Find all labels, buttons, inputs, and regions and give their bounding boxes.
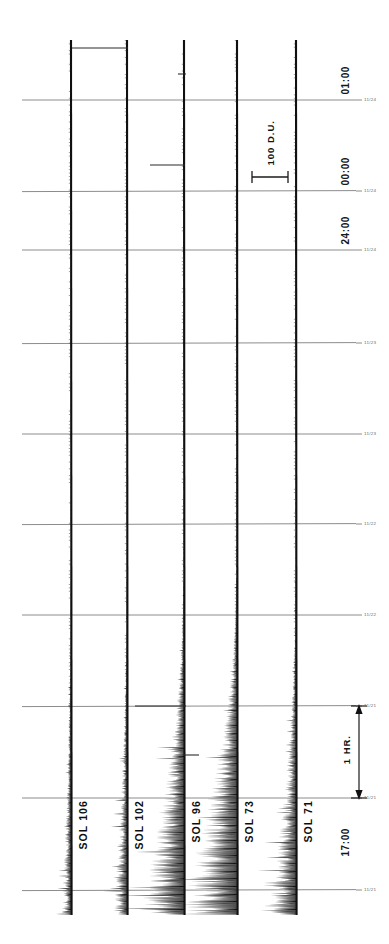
- trace-texture: [182, 519, 184, 520]
- trace-texture: [235, 101, 237, 102]
- trace-texture: [125, 360, 127, 361]
- trace-label-sol-102: SOL 102: [133, 800, 145, 850]
- trace-texture: [69, 424, 71, 425]
- trace-texture: [125, 305, 127, 306]
- trace-texture: [69, 570, 71, 571]
- trace-texture: [182, 815, 184, 816]
- gridline-date-label: 11/23: [364, 431, 376, 436]
- trace-texture: [125, 451, 127, 452]
- trace-texture: [235, 710, 237, 711]
- trace-texture: [125, 213, 127, 214]
- trace-texture: [69, 645, 71, 646]
- trace-texture: [69, 625, 71, 626]
- trace-texture: [125, 649, 127, 650]
- trace-texture: [125, 254, 127, 255]
- trace-texture: [125, 696, 127, 697]
- trace-texture: [235, 547, 237, 548]
- trace-texture: [294, 628, 296, 629]
- trace-texture: [235, 190, 237, 191]
- trace-texture: [182, 322, 184, 323]
- trace-texture: [125, 870, 127, 871]
- trace-texture: [125, 774, 127, 775]
- trace-texture: [235, 220, 237, 221]
- trace-texture: [182, 268, 184, 269]
- trace-texture: [235, 135, 237, 136]
- trace-texture: [294, 339, 296, 340]
- trace-texture: [235, 319, 237, 320]
- trace-texture: [294, 455, 296, 456]
- gridlines-group: [22, 100, 362, 891]
- trace-texture: [182, 499, 184, 500]
- trace-texture: [235, 207, 237, 208]
- strip-chart-figure: 11/2411/2411/2411/2311/2311/2211/2211/21…: [0, 0, 389, 944]
- trace-texture: [69, 462, 71, 463]
- trace-texture: [69, 169, 71, 170]
- trace-texture: [294, 101, 296, 102]
- trace-texture: [125, 676, 127, 677]
- trace-texture: [182, 319, 184, 320]
- trace-texture: [69, 560, 71, 561]
- trace-texture: [69, 808, 71, 809]
- trace-texture: [125, 152, 127, 153]
- trace-texture: [125, 778, 127, 779]
- trace-texture: [69, 434, 71, 435]
- trace-texture: [182, 560, 184, 561]
- trace-texture: [125, 332, 127, 333]
- trace-texture: [125, 570, 127, 571]
- trace-texture: [235, 210, 237, 211]
- trace-texture: [294, 536, 296, 537]
- trace-texture: [235, 414, 237, 415]
- trace-texture: [125, 550, 127, 551]
- trace-texture: [125, 492, 127, 493]
- trace-texture: [182, 482, 184, 483]
- trace-texture: [125, 455, 127, 456]
- trace-texture: [69, 111, 71, 112]
- trace-texture: [125, 642, 127, 643]
- trace-texture: [182, 227, 184, 228]
- trace-texture: [182, 64, 184, 65]
- trace-texture: [125, 462, 127, 463]
- trace-texture: [69, 295, 71, 296]
- trace-texture: [294, 893, 296, 894]
- trace-texture: [182, 377, 184, 378]
- trace-texture: [125, 288, 127, 289]
- trace-texture: [69, 329, 71, 330]
- trace-texture: [69, 842, 71, 843]
- trace-texture: [125, 336, 127, 337]
- trace-texture: [235, 730, 237, 731]
- trace-texture: [125, 543, 127, 544]
- trace-texture: [235, 717, 237, 718]
- trace-texture: [294, 241, 296, 242]
- trace-texture: [125, 706, 127, 707]
- trace-texture: [294, 186, 296, 187]
- trace-texture: [69, 166, 71, 167]
- trace-baseline: [71, 40, 72, 915]
- trace-texture: [69, 455, 71, 456]
- trace-texture: [182, 292, 184, 293]
- trace-texture: [294, 292, 296, 293]
- trace-texture: [69, 254, 71, 255]
- trace-texture: [125, 791, 127, 792]
- trace-texture: [69, 210, 71, 211]
- trace-texture: [182, 577, 184, 578]
- trace-texture: [125, 893, 127, 894]
- trace-texture: [294, 907, 296, 908]
- trace-texture: [182, 258, 184, 259]
- trace-texture: [125, 635, 127, 636]
- trace-texture: [69, 288, 71, 289]
- trace-texture: [69, 241, 71, 242]
- trace-texture: [125, 50, 127, 51]
- trace-texture: [69, 319, 71, 320]
- trace-texture: [294, 740, 296, 741]
- trace-texture: [125, 84, 127, 85]
- trace-texture: [182, 659, 184, 660]
- trace-label-sol-106: SOL 106: [77, 800, 89, 850]
- trace-texture: [235, 258, 237, 259]
- trace-texture: [294, 832, 296, 833]
- trace-texture: [235, 162, 237, 163]
- trace-texture: [294, 672, 296, 673]
- trace-texture: [69, 54, 71, 55]
- trace-texture: [182, 547, 184, 548]
- trace-texture: [125, 64, 127, 65]
- trace-texture: [235, 383, 237, 384]
